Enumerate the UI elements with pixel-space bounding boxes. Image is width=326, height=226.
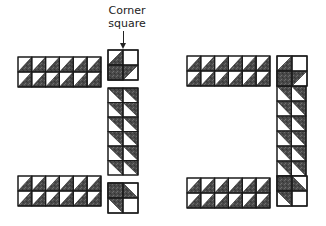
bottom-horizontal-strip xyxy=(187,178,270,208)
top-horizontal-strip xyxy=(18,57,101,87)
bottom-corner-square xyxy=(277,176,307,206)
top-corner-square xyxy=(108,50,138,80)
left-separated-layout xyxy=(18,50,138,213)
corner-square-label: Corner square xyxy=(104,4,150,30)
caption-line-1: Corner xyxy=(104,4,150,17)
caption-line-2: square xyxy=(104,17,150,30)
arrowhead-icon xyxy=(120,43,126,49)
quilt-border-diagram xyxy=(0,0,326,226)
top-horizontal-strip xyxy=(187,56,270,86)
top-corner-square xyxy=(277,56,307,86)
right-assembled-layout xyxy=(187,56,307,208)
vertical-strip xyxy=(108,88,138,175)
bottom-horizontal-strip xyxy=(18,176,101,206)
vertical-strip xyxy=(277,86,306,176)
bottom-corner-square xyxy=(108,183,138,213)
